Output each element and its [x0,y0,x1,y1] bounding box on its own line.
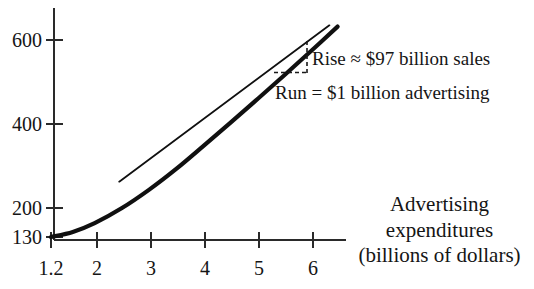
run-annotation-label: Run = $1 billion advertising [275,83,489,102]
tangent-line [119,25,329,181]
x-axis-title-line-2: expenditures [345,218,534,244]
x-axis-title: Advertising expenditures (billions of do… [345,192,534,269]
y-tick-label-200: 200 [0,198,42,218]
y-tick-label-400: 400 [0,114,42,134]
x-tick-label-5: 5 [229,258,289,278]
x-axis-title-line-1: Advertising [345,192,534,218]
y-tick-label-600: 600 [0,30,42,50]
x-axis-title-line-3: (billions of dollars) [345,243,534,269]
x-tick-label-4: 4 [175,258,235,278]
chart-figure: 600 400 200 130 1.2 2 3 4 5 6 Rise ≈ $97… [0,0,534,289]
sales-curve [51,27,338,237]
rise-annotation-label: Rise ≈ $97 billion sales [312,49,490,68]
x-tick-label-6: 6 [283,258,343,278]
x-tick-label-2: 2 [67,258,127,278]
y-tick-label-130: 130 [0,227,42,247]
x-tick-label-3: 3 [121,258,181,278]
